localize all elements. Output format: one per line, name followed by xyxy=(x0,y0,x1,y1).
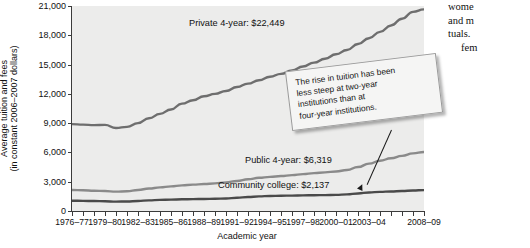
x-axis-tick-label: 2000–01 xyxy=(319,217,352,227)
x-axis-tick xyxy=(237,211,238,216)
y-axis-tick-label: 18,000 xyxy=(38,30,66,40)
x-axis-tick xyxy=(127,211,128,216)
x-axis-tick xyxy=(226,211,227,216)
x-axis-tick-label: 1988–89 xyxy=(187,217,220,227)
y-axis-title: Average tuition and fees (in constant 20… xyxy=(0,6,20,211)
x-axis-tick-label: 1994–95 xyxy=(253,217,286,227)
y-axis-tick-label: 9,000 xyxy=(43,118,66,128)
x-axis-tick xyxy=(160,211,161,216)
x-axis-tick xyxy=(259,211,260,216)
x-axis-tick xyxy=(303,211,304,216)
x-axis-tick xyxy=(248,211,249,216)
x-axis-tick xyxy=(149,211,150,216)
x-axis-tick xyxy=(270,211,271,216)
x-axis-tick-label: 1985–86 xyxy=(154,217,187,227)
x-axis-tick xyxy=(292,211,293,216)
y-axis-tick xyxy=(68,6,73,7)
x-axis-title: Academic year xyxy=(71,231,423,241)
x-axis-tick xyxy=(182,211,183,216)
x-axis-tick xyxy=(380,211,381,216)
x-axis-tick-label: 1979–80 xyxy=(88,217,121,227)
x-axis-tick-label: 2008–09 xyxy=(407,217,440,227)
x-axis-tick xyxy=(94,211,95,216)
y-axis-tick xyxy=(68,35,73,36)
x-axis-tick xyxy=(72,211,73,216)
series-label-private-4-year: Private 4-year: $22,449 xyxy=(189,18,285,28)
x-axis-tick xyxy=(105,211,106,216)
x-axis-tick xyxy=(171,211,172,216)
y-axis-title-line1: Average tuition and fees xyxy=(0,45,9,171)
y-axis-tick-label: 15,000 xyxy=(38,60,66,70)
x-axis-tick xyxy=(358,211,359,216)
x-axis-tick-label: 1997–98 xyxy=(286,217,319,227)
y-axis-tick-label: 12,000 xyxy=(38,89,66,99)
x-axis-tick xyxy=(116,211,117,216)
x-axis-tick xyxy=(193,211,194,216)
y-axis-title-line2: (in constant 2006–2007 dollars) xyxy=(9,45,20,171)
x-axis-tick xyxy=(83,211,84,216)
y-axis-tick-label: 21,000 xyxy=(38,1,66,11)
series-label-community-college: Community college: $2,137 xyxy=(218,180,329,190)
x-axis-tick xyxy=(314,211,315,216)
y-axis-tick xyxy=(68,65,73,66)
x-axis-tick-label: 2003–04 xyxy=(352,217,385,227)
y-axis-tick xyxy=(68,182,73,183)
x-axis-tick xyxy=(402,211,403,216)
x-axis-tick-label: 1976–77 xyxy=(55,217,88,227)
y-axis-tick xyxy=(68,152,73,153)
y-axis-tick xyxy=(68,94,73,95)
y-axis-tick-label: 3,000 xyxy=(43,177,66,187)
series-label-public-4-year: Public 4-year: $6,319 xyxy=(245,155,332,165)
x-axis-tick xyxy=(413,211,414,216)
x-axis-tick xyxy=(138,211,139,216)
x-axis-tick xyxy=(336,211,337,216)
book-page: wome and m tuals. fem Average tuition an… xyxy=(0,0,530,248)
x-axis-tick xyxy=(281,211,282,216)
x-axis-tick xyxy=(391,211,392,216)
x-axis-tick-label: 1982–83 xyxy=(121,217,154,227)
x-axis-tick xyxy=(424,211,425,216)
x-axis-tick xyxy=(325,211,326,216)
x-axis-tick-label: 1991–92 xyxy=(220,217,253,227)
x-axis-tick xyxy=(347,211,348,216)
x-axis-tick xyxy=(204,211,205,216)
y-axis-tick xyxy=(68,123,73,124)
x-axis-tick xyxy=(369,211,370,216)
y-axis-tick-label: 0 xyxy=(61,206,66,216)
x-axis-tick xyxy=(215,211,216,216)
y-axis-tick-label: 6,000 xyxy=(43,147,66,157)
line-chart: Average tuition and fees (in constant 20… xyxy=(0,0,470,248)
